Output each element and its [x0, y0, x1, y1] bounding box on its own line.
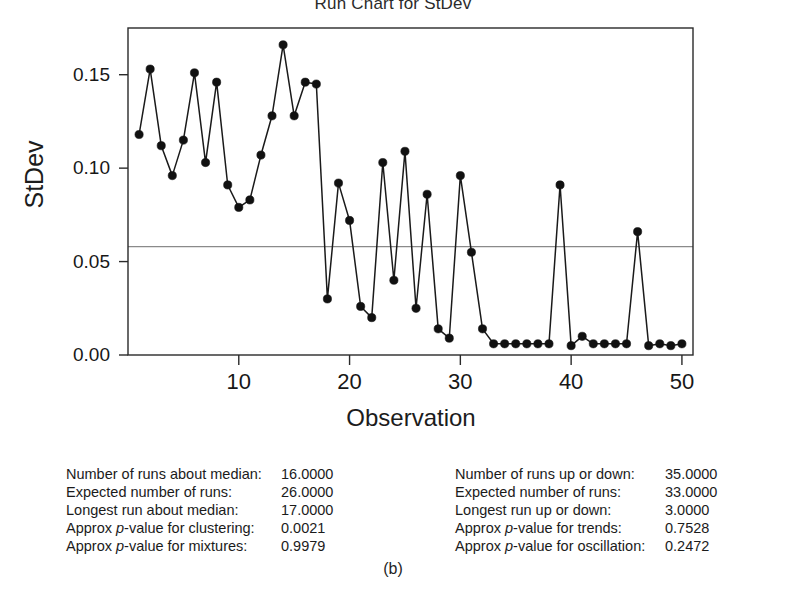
stats-block-median: Number of runs about median:16.0000Expec…	[66, 465, 396, 555]
data-point-marker	[179, 136, 187, 144]
data-point-marker	[678, 340, 686, 348]
data-point-marker	[345, 216, 353, 224]
p-symbol: p	[116, 538, 124, 554]
y-tick-label: 0.00	[40, 344, 110, 366]
stat-row: Number of runs about median:16.0000	[66, 465, 396, 483]
data-point-marker	[600, 340, 608, 348]
data-point-marker	[467, 248, 475, 256]
trends-stat-label-2: Longest run up or down:	[455, 501, 665, 519]
data-point-marker	[567, 342, 575, 350]
data-point-marker	[201, 158, 209, 166]
stat-row: Approx p-value for clustering:0.0021	[66, 519, 396, 537]
trends-stat-label-0: Number of runs up or down:	[455, 465, 665, 483]
data-point-marker	[556, 181, 564, 189]
data-point-marker	[578, 332, 586, 340]
stat-row: Approx p-value for oscillation:0.2472	[455, 537, 785, 555]
data-point-marker	[334, 179, 342, 187]
data-point-marker	[290, 112, 298, 120]
data-point-marker	[379, 158, 387, 166]
run-chart-figure: Run Chart for StDev StDev Observation 0.…	[0, 0, 786, 596]
data-point-marker	[246, 196, 254, 204]
data-point-marker	[268, 112, 276, 120]
trends-stat-label-3: Approx p-value for trends:	[455, 519, 665, 537]
stat-row: Expected number of runs:33.0000	[455, 483, 785, 501]
y-tick-label: 0.10	[40, 157, 110, 179]
x-tick-label: 10	[209, 369, 269, 395]
stat-row: Approx p-value for mixtures:0.9979	[66, 537, 396, 555]
trends-stat-label-1: Expected number of runs:	[455, 483, 665, 501]
data-line-group	[139, 45, 682, 346]
p-symbol: p	[505, 538, 513, 554]
data-point-marker	[501, 340, 509, 348]
median-stat-label-0: Number of runs about median:	[66, 465, 281, 483]
data-point-marker	[135, 130, 143, 138]
data-point-marker	[357, 302, 365, 310]
median-stat-value-1: 26.0000	[281, 483, 333, 501]
x-tick-label: 20	[320, 369, 380, 395]
x-tick-label: 40	[541, 369, 601, 395]
data-series-line	[139, 45, 682, 346]
data-point-marker	[434, 325, 442, 333]
data-point-marker	[489, 340, 497, 348]
data-point-marker	[656, 340, 664, 348]
data-point-marker	[190, 69, 198, 77]
stat-row: Number of runs up or down:35.0000	[455, 465, 785, 483]
median-stat-label-2: Longest run about median:	[66, 501, 281, 519]
data-point-marker	[534, 340, 542, 348]
data-point-marker	[146, 65, 154, 73]
trends-stat-value-3: 0.7528	[665, 519, 709, 537]
data-point-marker	[323, 295, 331, 303]
stat-row: Approx p-value for trends:0.7528	[455, 519, 785, 537]
data-point-marker	[368, 314, 376, 322]
trends-stat-value-4: 0.2472	[665, 537, 709, 555]
median-stat-value-4: 0.9979	[281, 537, 325, 555]
data-point-marker	[645, 342, 653, 350]
x-tick-label: 50	[652, 369, 712, 395]
plot-frame	[128, 28, 693, 355]
data-point-marker	[589, 340, 597, 348]
y-tick-label: 0.05	[40, 251, 110, 273]
median-stat-value-2: 17.0000	[281, 501, 333, 519]
data-point-marker	[401, 147, 409, 155]
trends-stat-value-2: 3.0000	[665, 501, 709, 519]
data-point-marker	[235, 203, 243, 211]
stat-row: Expected number of runs:26.0000	[66, 483, 396, 501]
stat-row: Longest run up or down:3.0000	[455, 501, 785, 519]
median-stat-value-3: 0.0021	[281, 519, 325, 537]
data-point-marker	[224, 181, 232, 189]
data-point-marker	[523, 340, 531, 348]
data-point-marker	[390, 276, 398, 284]
data-point-marker	[213, 78, 221, 86]
data-point-marker	[512, 340, 520, 348]
run-chart-svg	[0, 0, 786, 400]
trends-stat-label-4: Approx p-value for oscillation:	[455, 537, 665, 555]
data-point-marker	[545, 340, 553, 348]
data-point-marker	[423, 190, 431, 198]
plot-area: StDev Observation 0.000.050.100.15 10203…	[0, 0, 786, 400]
p-symbol: p	[116, 520, 124, 536]
data-point-marker	[312, 80, 320, 88]
data-point-marker	[301, 78, 309, 86]
data-point-marker	[622, 340, 630, 348]
data-point-marker	[478, 325, 486, 333]
p-symbol: p	[505, 520, 513, 536]
data-point-marker	[667, 342, 675, 350]
x-axis-title: Observation	[128, 404, 694, 432]
data-point-marker	[257, 151, 265, 159]
run-chart-statistics: Number of runs about median:16.0000Expec…	[0, 465, 786, 555]
y-tick-label: 0.15	[40, 64, 110, 86]
median-stat-value-0: 16.0000	[281, 465, 333, 483]
data-point-marker	[456, 172, 464, 180]
data-point-marker	[157, 142, 165, 150]
stats-block-trends: Number of runs up or down:35.0000Expecte…	[455, 465, 785, 555]
x-tick-label: 30	[430, 369, 490, 395]
trends-stat-value-0: 35.0000	[665, 465, 717, 483]
stat-row: Longest run about median:17.0000	[66, 501, 396, 519]
data-point-marker	[445, 334, 453, 342]
median-stat-label-3: Approx p-value for clustering:	[66, 519, 281, 537]
data-point-marker	[611, 340, 619, 348]
figure-caption: (b)	[0, 560, 786, 578]
median-stat-label-1: Expected number of runs:	[66, 483, 281, 501]
data-point-marker	[412, 304, 420, 312]
data-point-marker	[634, 228, 642, 236]
